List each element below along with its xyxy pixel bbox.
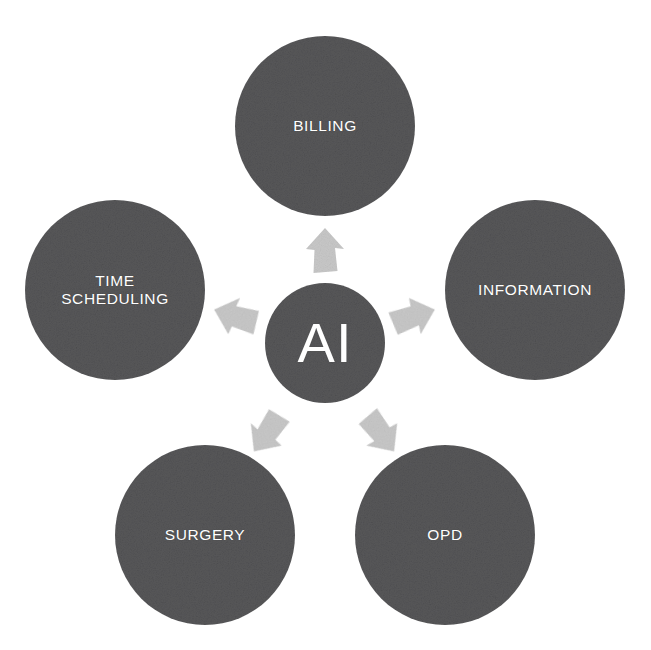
arrow-to-billing-icon [306,228,344,273]
node-circle-billing[interactable] [235,36,415,216]
arrow-to-time-scheduling-icon [208,292,263,342]
arrow-to-surgery-icon [239,404,296,463]
arrow-shape [306,228,344,273]
node-circle-information[interactable] [445,200,625,380]
center-node-circle[interactable] [265,283,385,403]
circle-layer [25,36,625,625]
diagram-canvas: BILLINGINFORMATIONOPDSURGERYTIME SCHEDUL… [0,0,651,650]
diagram-svg [0,0,651,650]
arrow-shape [239,404,296,463]
arrow-shape [208,292,263,342]
arrow-shape [352,404,409,463]
node-circle-opd[interactable] [355,445,535,625]
node-circle-time-scheduling[interactable] [25,200,205,380]
arrow-shape [386,292,441,342]
node-circle-surgery[interactable] [115,445,295,625]
arrow-to-information-icon [386,292,441,342]
arrow-to-opd-icon [352,404,409,463]
